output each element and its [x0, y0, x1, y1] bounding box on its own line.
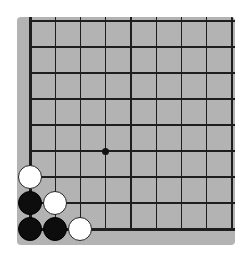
grid-line-horizontal [29, 20, 235, 21]
grid-line-horizontal [29, 124, 235, 125]
white-stone[interactable] [18, 165, 42, 189]
grid-line-horizontal [29, 46, 235, 47]
grid-line-horizontal [29, 176, 235, 177]
go-board[interactable] [17, 17, 235, 245]
grid-line-horizontal [29, 98, 235, 99]
white-stone[interactable] [43, 191, 67, 215]
grid-line-horizontal [29, 72, 235, 73]
grid-line-horizontal [29, 150, 235, 151]
black-stone[interactable] [18, 191, 42, 215]
star-point [102, 148, 109, 155]
black-stone[interactable] [18, 217, 42, 241]
white-stone[interactable] [68, 217, 92, 241]
black-stone[interactable] [43, 217, 67, 241]
